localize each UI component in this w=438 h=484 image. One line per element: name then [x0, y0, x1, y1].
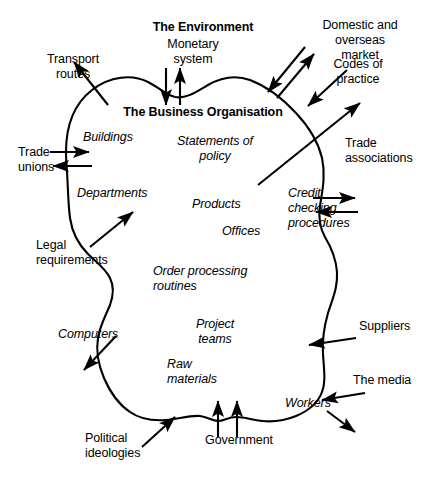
label-statements-of-policy: Statements of policy: [177, 134, 253, 164]
arrow-workers-outflow: [327, 411, 355, 432]
label-trade-associations: Trade associations: [345, 136, 413, 166]
label-government: Government: [205, 433, 273, 448]
arrow-domestic-overseas-market-out: [277, 54, 314, 98]
heading-the-environment: The Environment: [153, 20, 254, 35]
label-monetary-system: Monetary system: [167, 37, 218, 67]
label-departments: Departments: [77, 186, 147, 201]
label-political-ideologies: Political ideologies: [85, 431, 140, 461]
label-raw-materials: Raw materials: [167, 357, 217, 387]
label-workers: Workers: [285, 396, 331, 411]
label-offices: Offices: [222, 224, 260, 239]
arrow-political-ideologies: [142, 417, 175, 447]
label-products: Products: [192, 197, 241, 212]
label-project-teams: Project teams: [196, 317, 234, 347]
label-suppliers: Suppliers: [359, 319, 410, 334]
heading-the-business-organisation: The Business Organisation: [123, 105, 282, 120]
arrow-suppliers: [309, 338, 356, 345]
label-legal-requirements: Legal requirements: [36, 238, 108, 268]
label-credit-checking-procedures: Credit checking procedures: [288, 186, 350, 231]
label-trade-unions: Trade unions: [18, 145, 54, 175]
label-computers: Computers: [58, 327, 118, 342]
environment-business-organisation-diagram: The Environment The Business Organisatio…: [0, 0, 438, 484]
label-codes-of-practice: Codes of practice: [333, 57, 382, 87]
label-order-processing-routines: Order processing routines: [153, 264, 247, 294]
label-the-media: The media: [353, 373, 411, 388]
label-buildings: Buildings: [83, 130, 133, 145]
label-transport-routes: Transport routes: [47, 52, 99, 82]
